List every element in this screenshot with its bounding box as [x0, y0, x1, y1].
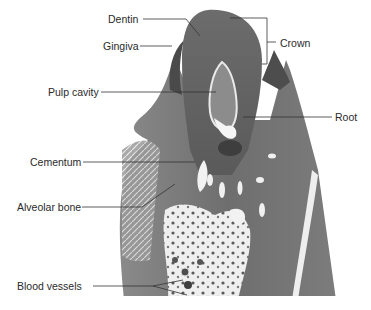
label-gingiva: Gingiva [103, 40, 139, 52]
label-blood-vessels: Blood vessels [17, 280, 82, 292]
label-cementum: Cementum [30, 156, 81, 168]
label-root: Root [335, 111, 357, 123]
tooth-histology-figure: Dentin Gingiva Pulp cavity Crown Root Ce… [0, 0, 371, 310]
label-alveolar-bone: Alveolar bone [17, 201, 81, 213]
micrograph-illustration [0, 0, 371, 310]
label-dentin: Dentin [108, 13, 138, 25]
label-crown: Crown [280, 37, 310, 49]
label-pulp-cavity: Pulp cavity [48, 86, 99, 98]
